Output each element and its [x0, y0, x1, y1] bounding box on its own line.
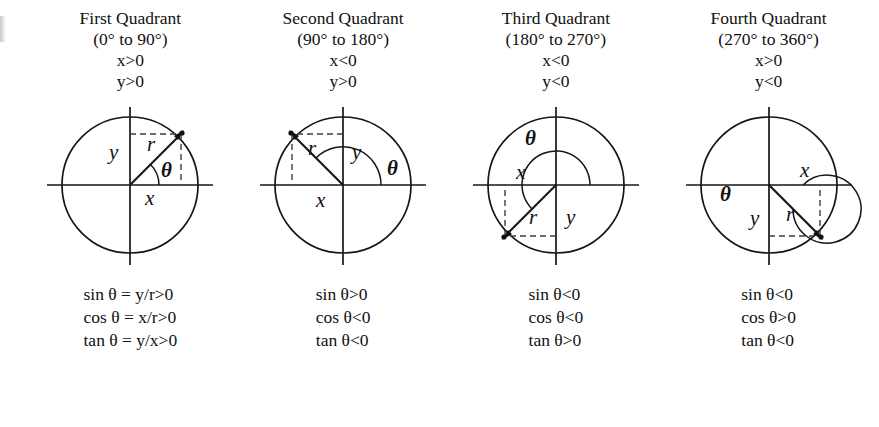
formula-tan-third: tan θ>0 [529, 329, 584, 352]
circle-svg-first: y r θ x [35, 97, 225, 273]
terminal-point [501, 234, 506, 239]
label-x: x [315, 188, 326, 212]
quadrant-formulas-second: sin θ>0 cos θ<0 tan θ<0 [316, 283, 371, 352]
sign-x-second: x<0 [329, 50, 356, 70]
label-x: x [144, 186, 155, 210]
label-r: r [147, 132, 156, 156]
sign-x-fourth: x>0 [755, 50, 782, 70]
quadrant-formulas-first: sin θ = y/r>0 cos θ = x/r>0 tan θ = y/x>… [84, 283, 178, 352]
formula-sin-fourth: sin θ<0 [741, 283, 796, 306]
quadrant-formulas-fourth: sin θ<0 cos θ>0 tan θ<0 [741, 283, 796, 352]
quadrant-range-second: (90° to 180°) [283, 29, 404, 50]
formula-cos-first: cos θ = x/r>0 [84, 306, 178, 329]
unit-circle-diagram-fourth: x θ y r [674, 97, 864, 273]
label-r: r [529, 205, 538, 229]
cropped-figure-number-mark [0, 16, 6, 42]
label-y: y [748, 206, 760, 230]
formula-sin-second: sin θ>0 [316, 283, 371, 306]
label-y: y [564, 205, 576, 229]
quadrant-title-third: Third Quadrant [502, 8, 610, 29]
sign-y-first: y>0 [117, 71, 144, 91]
formula-tan-first: tan θ = y/x>0 [84, 329, 178, 352]
quadrant-heading-second: Second Quadrant (90° to 180°) [283, 8, 404, 49]
label-theta: θ [525, 126, 536, 150]
sign-y-second: y>0 [329, 71, 356, 91]
label-x: x [515, 160, 526, 184]
trig-quadrants-figure: First Quadrant (0° to 90°) x>0 y>0 [0, 0, 879, 427]
label-y: y [350, 140, 362, 164]
theta-arc [150, 164, 159, 185]
theta-arc [316, 147, 381, 185]
formula-sin-third: sin θ<0 [529, 283, 584, 306]
label-r: r [308, 136, 317, 160]
sign-y-third: y<0 [542, 71, 569, 91]
quadrant-columns: First Quadrant (0° to 90°) x>0 y>0 [0, 0, 879, 427]
label-theta: θ [161, 158, 172, 182]
label-theta: θ [720, 182, 731, 206]
quadrant-heading-third: Third Quadrant (180° to 270°) [502, 8, 610, 49]
quadrant-signs-second: x<0 y>0 [329, 50, 356, 91]
formula-tan-second: tan θ<0 [316, 329, 371, 352]
formula-cos-fourth: cos θ>0 [741, 306, 796, 329]
sign-x-third: x<0 [542, 50, 569, 70]
formula-sin-first: sin θ = y/r>0 [84, 283, 178, 306]
unit-circle-diagram-second: r y θ x [248, 97, 438, 273]
quadrant-signs-fourth: x>0 y<0 [755, 50, 782, 91]
quadrant-formulas-third: sin θ<0 cos θ<0 tan θ>0 [529, 283, 584, 352]
unit-circle-diagram-third: θ x r y [461, 97, 651, 273]
quadrant-column-fourth: Fourth Quadrant (270° to 360°) x>0 y<0 [662, 8, 875, 421]
terminal-point [180, 130, 185, 135]
quadrant-title-first: First Quadrant [80, 8, 182, 29]
radius-vector [295, 137, 343, 185]
quadrant-range-fourth: (270° to 360°) [711, 29, 827, 50]
label-y: y [107, 140, 119, 164]
sign-x-first: x>0 [117, 50, 144, 70]
quadrant-range-third: (180° to 270°) [502, 29, 610, 50]
circle-svg-fourth: x θ y r [674, 97, 864, 273]
quadrant-title-second: Second Quadrant [283, 8, 404, 29]
quadrant-column-first: First Quadrant (0° to 90°) x>0 y>0 [24, 8, 237, 421]
formula-cos-third: cos θ<0 [529, 306, 584, 329]
formula-tan-fourth: tan θ<0 [741, 329, 796, 352]
circle-svg-third: θ x r y [461, 97, 651, 273]
label-theta: θ [387, 156, 398, 180]
quadrant-column-second: Second Quadrant (90° to 180°) x<0 y>0 [237, 8, 450, 421]
quadrant-signs-third: x<0 y<0 [542, 50, 569, 91]
quadrant-title-fourth: Fourth Quadrant [711, 8, 827, 29]
unit-circle-diagram-first: y r θ x [35, 97, 225, 273]
quadrant-range-first: (0° to 90°) [80, 29, 182, 50]
quadrant-column-third: Third Quadrant (180° to 270°) x<0 y<0 [450, 8, 663, 421]
label-r: r [786, 202, 795, 226]
terminal-point [818, 234, 823, 239]
terminal-point [289, 130, 294, 135]
formula-cos-second: cos θ<0 [316, 306, 371, 329]
quadrant-signs-first: x>0 y>0 [117, 50, 144, 91]
label-x: x [799, 158, 810, 182]
quadrant-heading-first: First Quadrant (0° to 90°) [80, 8, 182, 49]
quadrant-heading-fourth: Fourth Quadrant (270° to 360°) [711, 8, 827, 49]
sign-y-fourth: y<0 [755, 71, 782, 91]
circle-svg-second: r y θ x [248, 97, 438, 273]
